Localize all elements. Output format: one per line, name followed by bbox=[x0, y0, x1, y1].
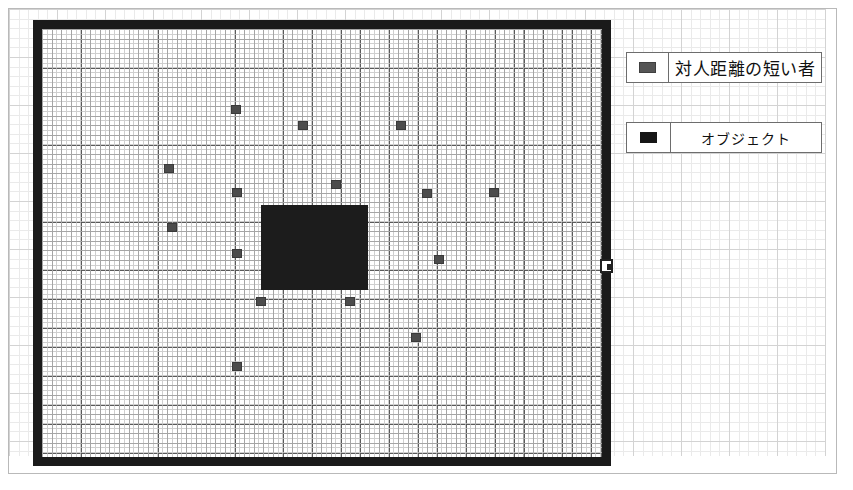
data-point-marker bbox=[167, 223, 177, 232]
data-point-marker bbox=[231, 105, 241, 114]
legend: 対人距離の短い者 オブジェクト bbox=[626, 52, 822, 153]
data-point-marker bbox=[232, 362, 242, 371]
data-point-marker bbox=[396, 121, 406, 130]
legend-label-object: オブジェクト bbox=[701, 128, 791, 148]
legend-label-person: 対人距離の短い者 bbox=[675, 55, 815, 80]
legend-label-cell: オブジェクト bbox=[671, 123, 821, 152]
legend-label-cell: 対人距離の短い者 bbox=[669, 53, 821, 82]
object-swatch-icon bbox=[640, 132, 657, 143]
data-point-marker bbox=[422, 189, 432, 198]
data-point-marker bbox=[164, 164, 174, 173]
legend-item-person[interactable]: 対人距離の短い者 bbox=[626, 52, 822, 83]
object-rectangle bbox=[261, 205, 368, 290]
legend-item-object[interactable]: オブジェクト bbox=[626, 122, 822, 153]
data-point-marker bbox=[256, 297, 266, 306]
data-point-marker bbox=[232, 188, 242, 197]
legend-swatch-cell bbox=[627, 123, 671, 152]
figure-page: 対人距離の短い者 オブジェクト bbox=[0, 0, 853, 490]
data-point-marker bbox=[434, 255, 444, 264]
data-point-marker bbox=[489, 188, 499, 197]
data-point-marker bbox=[411, 333, 421, 342]
data-point-marker bbox=[331, 180, 341, 189]
resize-handle[interactable] bbox=[600, 259, 613, 273]
data-point-marker bbox=[345, 297, 355, 306]
legend-swatch-cell bbox=[627, 53, 669, 82]
plot-area[interactable] bbox=[42, 29, 602, 457]
data-point-marker bbox=[232, 249, 242, 258]
data-point-marker bbox=[298, 121, 308, 130]
person-swatch-icon bbox=[639, 62, 656, 73]
plot-frame bbox=[33, 20, 611, 466]
